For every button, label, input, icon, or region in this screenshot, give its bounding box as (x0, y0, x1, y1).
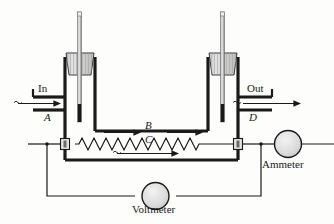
label-point-b: B (145, 120, 152, 131)
label-ammeter: Ammeter (262, 159, 304, 170)
ammeter-symbol-icon (275, 131, 302, 158)
left-thermometer-icon (78, 12, 82, 122)
label-point-d: D (249, 112, 257, 123)
label-inlet: In (38, 83, 47, 94)
right-thermometer-icon (221, 12, 225, 122)
left-terminal-block-icon (61, 139, 70, 150)
label-point-c: C (145, 134, 152, 145)
right-terminal-block-icon (234, 139, 243, 150)
heating-coil-icon (75, 138, 233, 150)
tube-flow-arrow-bottom (113, 151, 178, 154)
outlet-flow-arrow (233, 101, 300, 104)
label-voltmeter: Voltmeter (132, 204, 175, 215)
inlet-flow-arrow (14, 101, 60, 104)
label-point-a: A (44, 112, 51, 123)
calorimeter-circuit-figure: In Out A D B C Ammeter Voltmeter (0, 0, 334, 224)
label-outlet: Out (247, 83, 264, 94)
